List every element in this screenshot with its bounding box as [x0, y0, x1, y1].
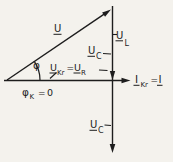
ikr-subscript: Kr	[141, 81, 149, 89]
ul-subscript: L	[125, 39, 130, 48]
uc-lower-subscript: C	[98, 126, 104, 135]
u-phasor-label: U	[54, 23, 61, 34]
i-symbol: I	[159, 73, 162, 85]
ukr-symbol: U	[50, 62, 57, 73]
ul-symbol: U	[116, 30, 123, 41]
uc-upper-symbol: U	[88, 45, 95, 56]
uc-lower-symbol: U	[90, 119, 97, 130]
ur-subscript: R	[81, 69, 86, 77]
phik-subscript: K	[30, 93, 35, 101]
phasor-diagram-canvas: U φ U Kr = U R φ K = 0 U L U C U C I Kr …	[0, 0, 173, 162]
uc-upper-label-tick	[103, 54, 111, 55]
phik-symbol: φ	[22, 86, 29, 98]
uc-upper-subscript: C	[96, 52, 102, 61]
ukr-equals-sign: =	[67, 63, 75, 73]
ukr-subscript: Kr	[57, 69, 65, 77]
ur-symbol: U	[74, 62, 81, 73]
phik-value: 0	[47, 87, 53, 98]
ukr-label-right-tick	[99, 70, 108, 71]
ikr-equals-sign: =	[151, 75, 159, 85]
uc-upper-arrowhead-icon	[110, 71, 115, 80]
phik-equals-sign: =	[38, 88, 46, 98]
u-phasor-arrowhead-icon	[102, 10, 111, 17]
uc-lower-arrowhead-icon	[110, 144, 116, 153]
phasor-diagram: U φ U Kr = U R φ K = 0 U L U C U C I Kr …	[0, 0, 173, 162]
uc-lower-label-tick	[105, 125, 112, 126]
ikr-symbol: I	[135, 73, 138, 85]
current-axis-arrowhead-icon	[122, 78, 131, 84]
phi-angle-label: φ	[33, 59, 40, 71]
